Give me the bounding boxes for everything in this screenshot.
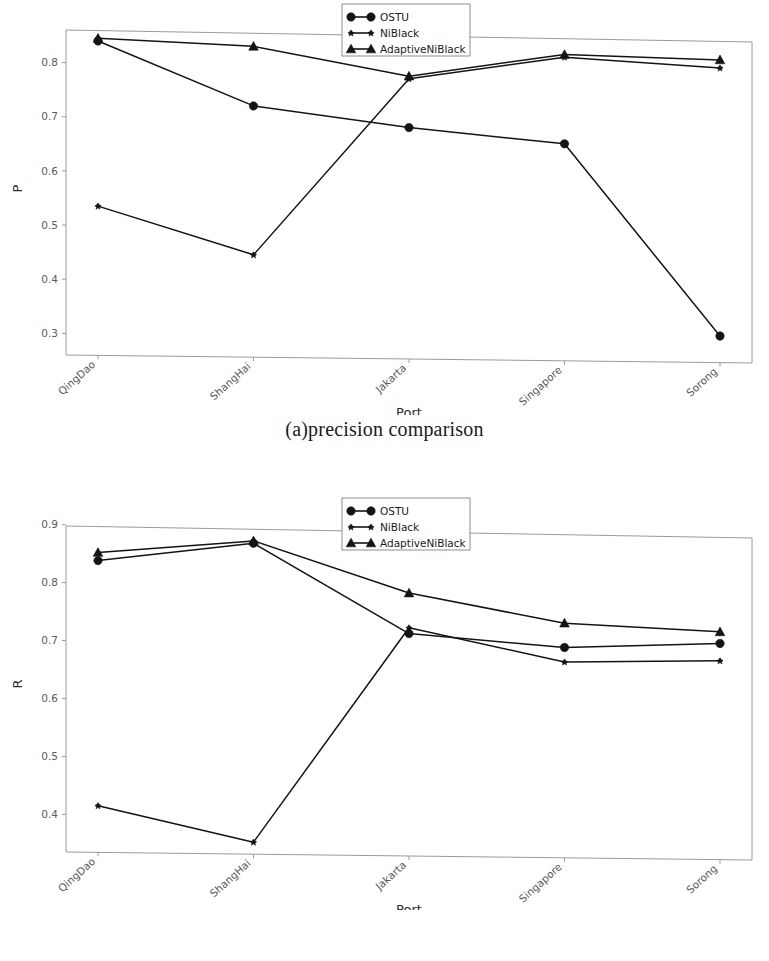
figure-panel-precision: 0.30.40.50.60.70.8PQingDaoShangHaiJakart…	[0, 0, 769, 470]
x-axis-title: Port	[396, 902, 422, 910]
x-tick-label: ShangHai	[207, 857, 252, 900]
precision-chart-svg: 0.30.40.50.60.70.8PQingDaoShangHaiJakart…	[0, 0, 769, 415]
y-tick-label: 0.5	[41, 750, 58, 762]
data-point-circle-marker	[249, 102, 257, 110]
y-tick-label: 0.8	[41, 576, 58, 588]
data-point-circle-marker	[716, 639, 724, 647]
chart-legend: OSTUNiBlackAdaptiveNiBlack	[342, 4, 470, 56]
x-tick-label: Jakarta	[372, 362, 408, 396]
data-point-circle-marker	[560, 643, 568, 651]
legend-label: AdaptiveNiBlack	[380, 537, 467, 549]
series-ostu	[94, 37, 724, 340]
y-tick-label: 0.6	[41, 692, 58, 704]
data-point-star-marker	[561, 659, 567, 665]
y-tick-label: 0.8	[41, 56, 58, 68]
legend-circle-marker	[347, 507, 355, 515]
legend-circle-marker	[367, 507, 375, 515]
recall-chart-svg: 0.40.50.60.70.80.9RQingDaoShangHaiJakart…	[0, 470, 769, 910]
y-tick-label: 0.9	[41, 518, 58, 530]
data-point-star-marker	[717, 658, 723, 664]
x-tick-label: Sorong	[684, 365, 719, 399]
data-point-circle-marker	[560, 140, 568, 148]
data-point-circle-marker	[716, 332, 724, 340]
y-tick-label: 0.3	[41, 327, 58, 339]
data-point-star-marker	[95, 803, 101, 809]
legend-circle-marker	[347, 13, 355, 21]
legend-label: NiBlack	[380, 521, 420, 533]
x-tick-label: Singapore	[516, 860, 563, 904]
x-tick-label: QingDao	[56, 358, 98, 397]
y-tick-label: 0.6	[41, 165, 58, 177]
series-niblack	[95, 54, 723, 258]
data-point-star-marker	[717, 65, 723, 71]
legend-label: AdaptiveNiBlack	[380, 43, 467, 55]
plot-area-recall: 0.40.50.60.70.80.9RQingDaoShangHaiJakart…	[0, 470, 769, 910]
data-point-star-marker	[95, 203, 101, 209]
x-tick-label: Singapore	[516, 363, 563, 407]
y-tick-label: 0.7	[41, 634, 58, 646]
x-tick-label: QingDao	[56, 855, 98, 894]
legend-circle-marker	[367, 13, 375, 21]
x-tick-label: ShangHai	[207, 360, 252, 403]
y-axis-title: R	[10, 679, 25, 688]
y-tick-label: 0.4	[41, 273, 58, 285]
y-tick-label: 0.4	[41, 808, 58, 820]
x-tick-label: Sorong	[684, 862, 719, 896]
series-niblack	[95, 625, 723, 846]
legend-label: OSTU	[380, 11, 409, 23]
x-tick-label: Jakarta	[372, 859, 408, 893]
data-point-circle-marker	[405, 123, 413, 131]
caption-precision: (a)precision comparison	[0, 418, 769, 441]
chart-legend: OSTUNiBlackAdaptiveNiBlack	[342, 498, 470, 550]
data-point-circle-marker	[94, 556, 102, 564]
plot-area-precision: 0.30.40.50.60.70.8PQingDaoShangHaiJakart…	[0, 0, 769, 415]
y-axis-title: P	[10, 184, 25, 192]
y-tick-label: 0.5	[41, 219, 58, 231]
legend-label: NiBlack	[380, 27, 420, 39]
x-axis-title: Port	[396, 405, 422, 415]
y-tick-label: 0.7	[41, 110, 58, 122]
figure-panel-recall: 0.40.50.60.70.80.9RQingDaoShangHaiJakart…	[0, 470, 769, 961]
legend-label: OSTU	[380, 505, 409, 517]
